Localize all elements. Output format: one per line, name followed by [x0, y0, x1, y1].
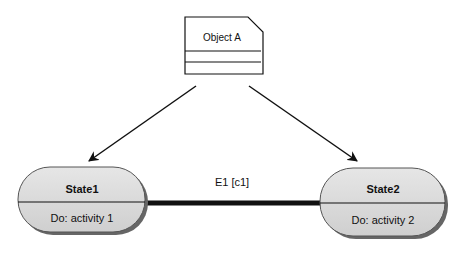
object-box[interactable]: Object A [185, 17, 263, 74]
state2-name: State2 [366, 183, 399, 195]
arrow-to-state2 [249, 86, 357, 161]
state1-activity: Do: activity 1 [51, 212, 114, 224]
state-diagram: Object A E1 [c1] State1 Do: activity 1 S… [0, 0, 462, 255]
object-name: Object A [203, 32, 241, 43]
state2[interactable]: State2 Do: activity 2 [320, 168, 448, 239]
state1[interactable]: State1 Do: activity 1 [18, 167, 148, 235]
arrow-to-state1 [89, 86, 196, 161]
state2-activity: Do: activity 2 [352, 214, 415, 226]
state1-name: State1 [65, 183, 98, 195]
transition-label: E1 [c1] [215, 176, 249, 188]
